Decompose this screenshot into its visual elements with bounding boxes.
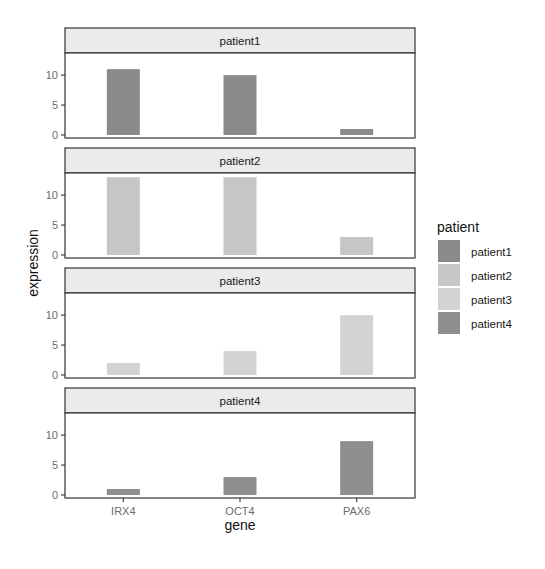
facet-strip-label: patient3 — [220, 275, 261, 287]
facet-strip-label: patient4 — [220, 395, 262, 407]
legend-label: patient4 — [471, 318, 513, 330]
y-tick-label: 10 — [46, 189, 58, 201]
legend-label: patient3 — [471, 294, 512, 306]
y-tick-label: 0 — [52, 249, 58, 261]
x-axis: IRX4OCT4PAX6 — [111, 498, 370, 517]
bar-pax6 — [340, 441, 373, 495]
legend-title: patient — [437, 219, 479, 235]
y-tick-label: 5 — [52, 459, 58, 471]
bar-oct4 — [224, 351, 257, 375]
y-tick-label: 5 — [52, 219, 58, 231]
legend-swatch — [438, 312, 460, 334]
y-tick-label: 0 — [52, 489, 58, 501]
legend-label: patient2 — [471, 270, 512, 282]
bar-irx4 — [107, 489, 140, 495]
y-tick-label: 0 — [52, 129, 58, 141]
bar-pax6 — [340, 315, 373, 375]
legend-item-patient2: patient2 — [438, 264, 512, 286]
y-tick-label: 5 — [52, 339, 58, 351]
facet-strip-label: patient2 — [220, 155, 261, 167]
legend-swatch — [438, 240, 460, 262]
facet-panel-patient3: patient30510 — [46, 268, 415, 381]
x-axis-title: gene — [224, 517, 255, 533]
bar-oct4 — [224, 477, 257, 495]
y-tick-label: 5 — [52, 99, 58, 111]
bar-pax6 — [340, 237, 373, 255]
y-tick-label: 10 — [46, 429, 58, 441]
y-tick-label: 0 — [52, 369, 58, 381]
x-tick-label: OCT4 — [225, 505, 254, 517]
x-tick-label: IRX4 — [111, 505, 135, 517]
legend-item-patient3: patient3 — [438, 288, 512, 310]
facet-strip-label: patient1 — [220, 35, 261, 47]
legend-swatch — [438, 264, 460, 286]
bar-pax6 — [340, 129, 373, 135]
facet-panels: patient10510patient20510patient30510pati… — [46, 28, 415, 501]
y-tick-label: 10 — [46, 309, 58, 321]
legend-item-patient1: patient1 — [438, 240, 512, 262]
facet-panel-patient4: patient40510 — [46, 388, 415, 501]
legend-label: patient1 — [471, 246, 512, 258]
legend-swatch — [438, 288, 460, 310]
legend: patient patient1patient2patient3patient4 — [437, 219, 513, 334]
bar-irx4 — [107, 177, 140, 255]
faceted-bar-chart: patient10510patient20510patient30510pati… — [0, 0, 545, 569]
bar-oct4 — [224, 177, 257, 255]
facet-panel-patient2: patient20510 — [46, 148, 415, 261]
facet-panel-patient1: patient10510 — [46, 28, 415, 141]
bar-irx4 — [107, 363, 140, 375]
y-axis-title: expression — [25, 229, 41, 297]
y-tick-label: 10 — [46, 69, 58, 81]
bar-oct4 — [224, 75, 257, 135]
legend-item-patient4: patient4 — [438, 312, 513, 334]
bar-irx4 — [107, 69, 140, 135]
x-tick-label: PAX6 — [343, 505, 370, 517]
